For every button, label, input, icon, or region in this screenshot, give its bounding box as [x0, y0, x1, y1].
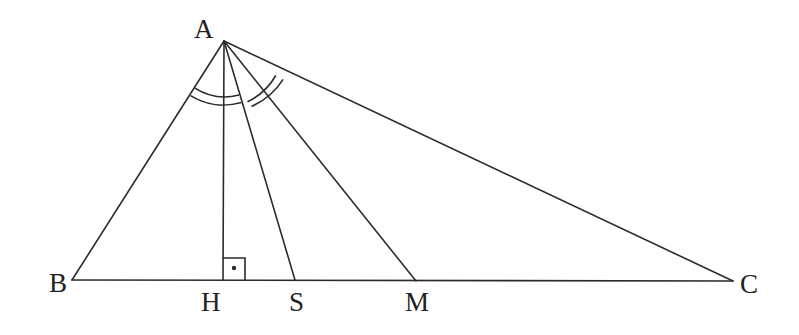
side-ac [224, 41, 733, 281]
bisector-as [224, 41, 295, 280]
label-a: A [194, 14, 214, 44]
altitude-ah [223, 41, 224, 280]
right-angle-dot [232, 266, 236, 270]
label-b: B [49, 268, 67, 298]
angle-bah-arc-inner [195, 88, 239, 97]
label-c: C [740, 269, 758, 299]
label-h: H [201, 287, 221, 317]
label-m: M [405, 287, 429, 317]
median-am [224, 41, 416, 281]
side-ab [72, 41, 224, 280]
angle-mac-arc-outer [252, 79, 284, 106]
side-bc [72, 280, 733, 281]
triangle-diagram: A B C H S M [0, 0, 799, 335]
label-s: S [289, 287, 304, 317]
